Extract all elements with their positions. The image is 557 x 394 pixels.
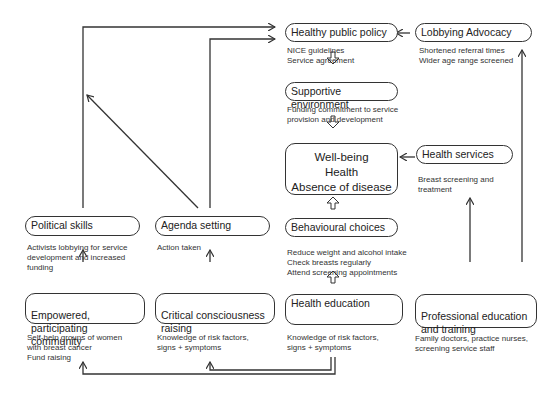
health-line: Health bbox=[291, 165, 392, 180]
node-title: Behavioural choices bbox=[291, 221, 385, 233]
node-desc-supportive-environment: Funding commitment to service provision … bbox=[287, 105, 398, 125]
node-behavioural-choices: Behavioural choices bbox=[285, 218, 398, 237]
node-desc-professional-education: Family doctors, practice nurses, screeni… bbox=[415, 334, 528, 354]
node-empowered-community: Empowered, participating community bbox=[25, 293, 145, 324]
node-desc-healthy-public-policy: NICE guidelines Service agreement bbox=[287, 46, 354, 66]
absence-of-disease-line: Absence of disease bbox=[291, 180, 392, 195]
node-healthy-public-policy: Healthy public policy bbox=[285, 23, 398, 42]
node-health-education: Health education bbox=[285, 294, 403, 325]
node-desc-critical-consciousness: Knowledge of risk factors, signs + sympt… bbox=[157, 333, 249, 353]
node-lobbying-advocacy: Lobbying Advocacy bbox=[415, 23, 532, 42]
node-title: Political skills bbox=[31, 219, 93, 231]
wellbeing-line: Well-being bbox=[291, 150, 392, 165]
node-desc-political-skills: Activists lobbying for service developme… bbox=[27, 243, 127, 273]
node-desc-lobbying-advocacy: Shortened referral times Wider age range… bbox=[419, 46, 513, 66]
node-critical-consciousness: Critical consciousness raising bbox=[155, 293, 275, 324]
node-supportive-environment: Supportive environment bbox=[285, 82, 398, 101]
node-title: Lobbying Advocacy bbox=[421, 26, 511, 38]
node-desc-behavioural-choices: Reduce weight and alcohol intake Check b… bbox=[287, 248, 407, 278]
node-title: Health education bbox=[291, 297, 370, 309]
node-wellbeing: Well-being Health Absence of disease bbox=[285, 143, 398, 195]
node-desc-health-education: Knowledge of risk factors, signs + sympt… bbox=[287, 333, 379, 353]
node-professional-education: Professional education and training bbox=[415, 294, 537, 328]
node-title: Agenda setting bbox=[161, 219, 231, 231]
node-title: Healthy public policy bbox=[291, 26, 387, 38]
node-desc-health-services: Breast screening and treatment bbox=[418, 175, 494, 195]
node-desc-empowered-community: Self-help groups of women with breast ca… bbox=[27, 333, 122, 363]
node-agenda-setting: Agenda setting bbox=[155, 216, 270, 236]
node-title: Health services bbox=[422, 148, 494, 160]
node-political-skills: Political skills bbox=[25, 216, 140, 236]
node-desc-agenda-setting: Action taken bbox=[157, 243, 201, 253]
node-health-services: Health services bbox=[416, 145, 513, 164]
